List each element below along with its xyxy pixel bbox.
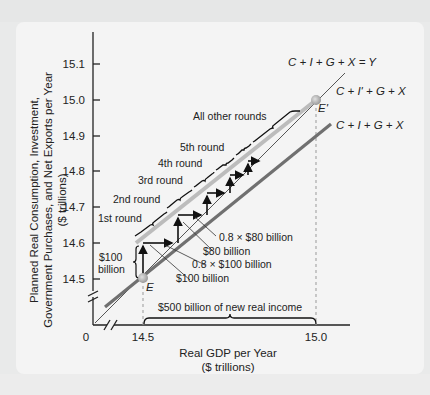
svg-text:Planned Real Consumption, Inve: Planned Real Consumption, Investment, <box>28 97 40 303</box>
label-dollar-100-billion: $100 billion <box>176 272 229 284</box>
svg-text:($ trillions): ($ trillions) <box>56 173 68 226</box>
label-45-line: C + I + G + X = Y <box>288 56 377 68</box>
svg-text:14.8: 14.8 <box>63 165 85 177</box>
label-round-5: 5th round <box>180 141 225 153</box>
label-round-3: 3rd round <box>138 174 183 186</box>
axes <box>88 32 350 330</box>
label-round-1: 1st round <box>98 212 142 224</box>
x-tick-labels: 0 14.5 15.0 <box>83 331 327 343</box>
svg-text:14.9: 14.9 <box>63 130 85 142</box>
label-e-prime: E' <box>318 102 329 114</box>
svg-text:15.0: 15.0 <box>63 94 85 106</box>
label-round-4: 4th round <box>158 157 203 169</box>
label-100: $100 <box>99 251 123 263</box>
svg-text:14.7: 14.7 <box>63 201 85 213</box>
svg-text:15.1: 15.1 <box>63 58 85 70</box>
y-tick-labels: 15.1 15.0 14.9 14.8 14.7 14.6 14.5 <box>63 58 85 285</box>
label-new-income: $500 billion of new real income <box>158 301 302 313</box>
multiplier-chart: Planned Real Consumption, Investment, Go… <box>0 0 430 395</box>
svg-text:14.5: 14.5 <box>132 331 154 343</box>
y-axis-label: Planned Real Consumption, Investment, Go… <box>28 72 68 328</box>
svg-text:0: 0 <box>83 331 89 343</box>
label-0-8x80: 0.8 × $80 billion <box>219 231 293 243</box>
label-80-billion: $80 billion <box>203 245 250 257</box>
label-all-other-rounds: All other rounds <box>193 110 267 122</box>
svg-text:($ trillions): ($ trillions) <box>201 361 254 373</box>
label-new-ae: C + I' + G + X <box>336 85 407 97</box>
label-e: E <box>146 281 154 293</box>
svg-text:Real GDP per Year: Real GDP per Year <box>179 347 277 359</box>
x-axis-label: Real GDP per Year ($ trillions) <box>179 347 277 373</box>
label-0-8x100: 0.8 × $100 billion <box>192 258 272 270</box>
brace-100-billion <box>133 246 139 278</box>
brace-500-billion <box>144 314 316 324</box>
svg-text:15.0: 15.0 <box>305 331 327 343</box>
svg-text:Government Purchases, and Net: Government Purchases, and Net Exports pe… <box>42 72 54 328</box>
label-old-ae: C + I + G + X <box>336 119 405 131</box>
svg-text:14.5: 14.5 <box>63 273 85 285</box>
svg-text:14.6: 14.6 <box>63 237 85 249</box>
label-round-2: 2nd round <box>113 193 160 205</box>
label-billion: billion <box>98 263 125 275</box>
